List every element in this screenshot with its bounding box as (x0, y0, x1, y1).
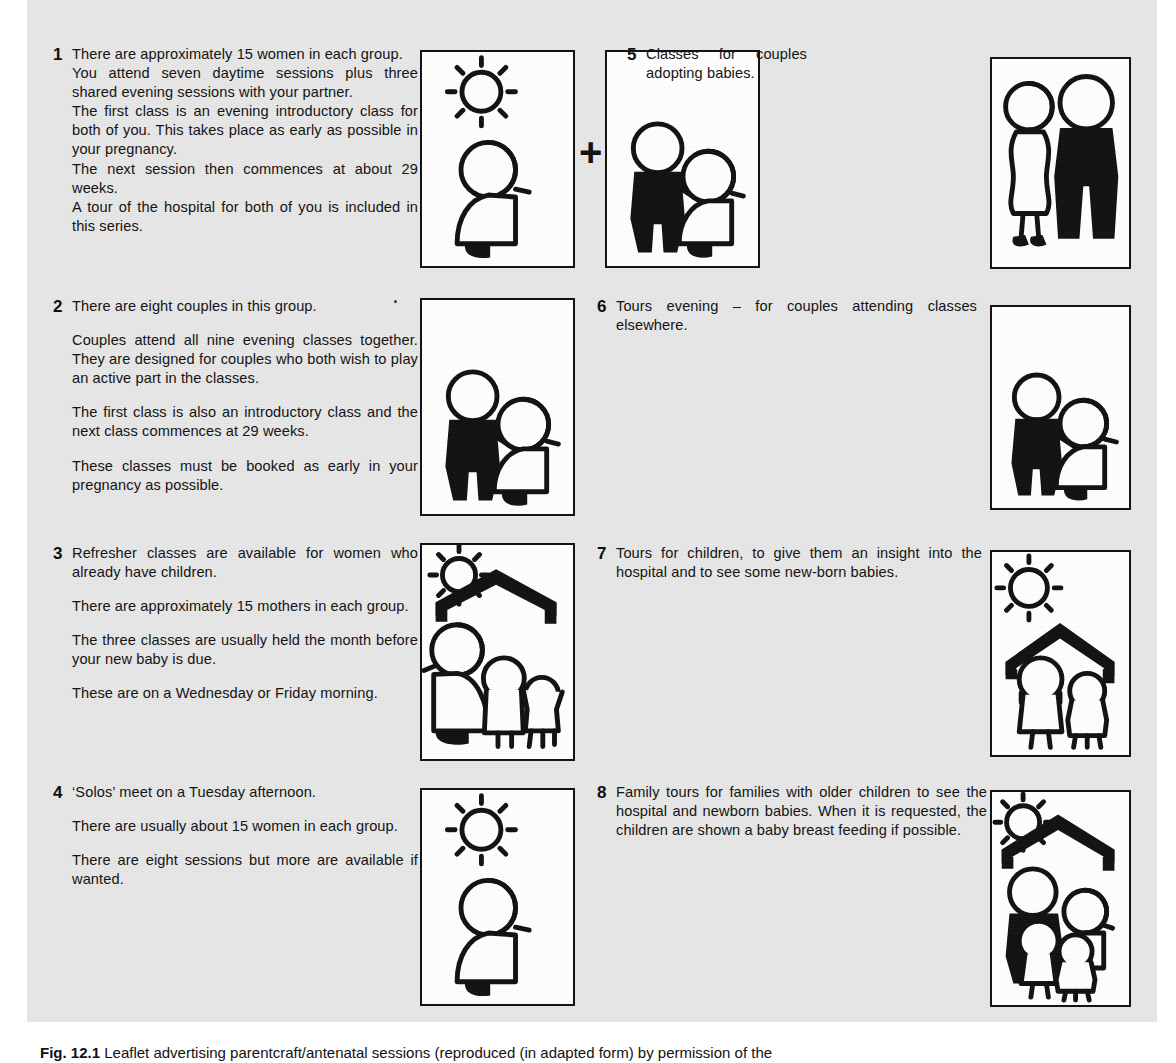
paragraph: The first class is an evening introducto… (72, 102, 418, 159)
moon-icon (469, 314, 492, 361)
pregnant-body (494, 449, 547, 492)
paragraph: The first class is also an introductory … (72, 403, 418, 441)
list-item-7: 7 Tours for children, to give them an in… (597, 544, 982, 582)
paragraph: There are usually about 15 women in each… (72, 817, 418, 836)
item-number: 6 (597, 297, 616, 316)
illustration-sun-pregnant-woman (420, 50, 575, 268)
mother-body (434, 673, 489, 730)
item-number: 7 (597, 544, 616, 563)
pictogram-moon-couple (992, 307, 1129, 508)
moon-icon (1033, 320, 1054, 363)
pictogram-moon-couple (607, 52, 758, 266)
figure-caption-label: Fig. 12.1 (40, 1044, 100, 1061)
item-text: Refresher classes are available for wome… (72, 544, 418, 704)
child-body-1 (1019, 695, 1062, 732)
list-item-1: 1 There are approximately 15 women in ea… (53, 45, 418, 236)
shoe (436, 733, 469, 745)
paragraph: You attend seven daytime sessions plus t… (72, 64, 418, 102)
scan-artifact-dot (394, 300, 397, 303)
child-body-1 (484, 690, 523, 733)
illustration-sun-house-two-children (990, 550, 1131, 757)
child-body-2 (1068, 701, 1107, 736)
item-text: There are eight couples in this group. C… (72, 297, 418, 495)
figure-caption: Fig. 12.1 Leaflet advertising parentcraf… (40, 1043, 1150, 1063)
man-figure-black (1054, 77, 1118, 239)
paragraph: Couples attend all nine evening classes … (72, 331, 418, 388)
pregnant-body (457, 933, 515, 982)
pictogram-sun-pregnant-woman (422, 52, 573, 266)
illustration-moon-couple-2 (420, 298, 575, 516)
paragraph: There are approximately 15 mothers in ea… (72, 597, 418, 616)
shoe (687, 246, 712, 258)
pregnant-body (679, 201, 732, 244)
paragraph: A tour of the hospital for both of you i… (72, 198, 418, 236)
pictogram-sun-house-mother-children (422, 545, 573, 759)
item-text: ‘Solos’ meet on a Tuesday afternoon. The… (72, 783, 418, 889)
list-item-3: 3 Refresher classes are available for wo… (53, 544, 418, 704)
shoe (1064, 490, 1087, 501)
plus-connector: + (579, 132, 602, 172)
item-number: 5 (627, 45, 646, 64)
item-text: Tours for children, to give them an insi… (616, 544, 982, 582)
shoe-left (1012, 235, 1028, 247)
item-text: Family tours for families with older chi… (616, 783, 987, 840)
paragraph: There are eight sessions but more are av… (72, 851, 418, 889)
illustration-sun-pregnant-woman-2 (420, 788, 575, 1006)
illustration-moon-couple-3 (990, 305, 1131, 510)
item-number: 4 (53, 783, 72, 802)
paragraph: Refresher classes are available for wome… (72, 544, 418, 582)
paragraph: Tours evening – for couples attending cl… (616, 297, 977, 335)
paragraph: These are on a Wednesday or Friday morni… (72, 684, 418, 703)
pregnant-body (457, 195, 515, 244)
paragraph: These classes must be booked as early in… (72, 457, 418, 495)
list-item-4: 4 ‘Solos’ meet on a Tuesday afternoon. T… (53, 783, 418, 889)
figure-page: 1 There are approximately 15 women in ea… (0, 0, 1176, 1063)
list-item-2: 2 There are eight couples in this group.… (53, 297, 418, 495)
item-text: There are approximately 15 women in each… (72, 45, 418, 236)
pictogram-couple-standing (992, 59, 1129, 267)
shoe-right (1030, 235, 1046, 247)
pictogram-sun-house-two-children (992, 552, 1129, 755)
item-number: 1 (53, 45, 72, 64)
item-number: 2 (53, 297, 72, 316)
item-number: 3 (53, 544, 72, 563)
paragraph: The three classes are usually held the m… (72, 631, 418, 669)
paragraph: There are eight couples in this group. (72, 297, 418, 316)
shoe (465, 246, 490, 258)
arm (516, 189, 530, 192)
item-number: 8 (597, 783, 616, 802)
pictogram-moon-couple (422, 300, 573, 514)
child-head-1 (1019, 658, 1062, 701)
paragraph: There are approximately 15 women in each… (72, 45, 418, 64)
figure-caption-text: Leaflet advertising parentcraft/antenata… (104, 1044, 772, 1061)
pregnant-body (1056, 447, 1105, 488)
woman-body (1011, 132, 1049, 214)
child-body-1 (1021, 954, 1056, 983)
list-item-8: 8 Family tours for families with older c… (597, 783, 987, 840)
item-text: Tours evening – for couples attending cl… (616, 297, 977, 335)
pictogram-sun-pregnant-woman (422, 790, 573, 1004)
child-body-2 (1056, 962, 1095, 991)
illustration-couple-standing (990, 57, 1131, 269)
scanned-leaflet: 1 There are approximately 15 women in ea… (27, 0, 1157, 1022)
paragraph: Tours for children, to give them an insi… (616, 544, 982, 582)
sun-icon (462, 72, 501, 111)
illustration-sun-house-family (990, 790, 1131, 1007)
shoe (502, 494, 527, 506)
house-roof (436, 569, 557, 616)
leaflet-grid: 1 There are approximately 15 women in ea… (27, 0, 1157, 1022)
paragraph: The next session then commences at about… (72, 160, 418, 198)
list-item-6: 6 Tours evening – for couples attending … (597, 297, 977, 335)
pictogram-sun-house-family (992, 792, 1129, 1005)
illustration-sun-house-mother-children (420, 543, 575, 761)
sun-icon (462, 810, 501, 849)
shoe (465, 984, 490, 996)
paragraph: ‘Solos’ meet on a Tuesday afternoon. (72, 783, 418, 802)
sun-icon (1010, 569, 1047, 606)
paragraph: Family tours for families with older chi… (616, 783, 987, 840)
paragraph: Classes for couples adopting babies. (646, 45, 807, 83)
list-item-5: 5 Classes for couples adopting babies. (627, 45, 807, 83)
item-text: Classes for couples adopting babies. (646, 45, 807, 83)
